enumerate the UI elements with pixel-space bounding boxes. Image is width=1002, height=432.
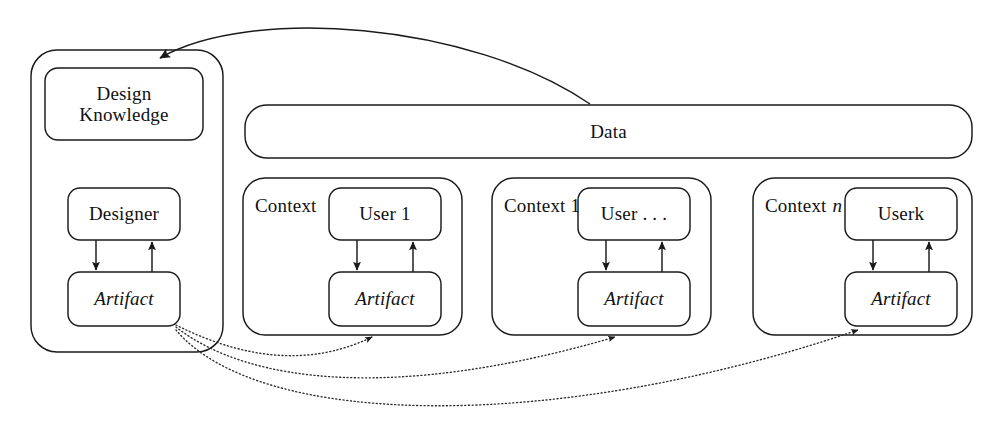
context-panel-3-outline: [753, 178, 972, 335]
context-3-artifact-box: [845, 272, 957, 326]
designer-artifact-box: [68, 272, 180, 326]
artifact-deploy-curve-3: [176, 330, 858, 406]
data-to-design-knowledge-curve: [160, 28, 590, 104]
context-1-artifact-box: [329, 272, 441, 326]
designer-box: [68, 188, 180, 240]
figure-canvas: Design Knowledge Designer Artifact Data …: [0, 0, 1002, 432]
designer-panel-outline: [31, 50, 223, 352]
context-2-user-box: [578, 188, 690, 240]
context-3-user-box: [845, 188, 957, 240]
design-knowledge-box: [45, 68, 203, 140]
diagram-vector-layer: [0, 0, 1002, 432]
context-1-user-box: [329, 188, 441, 240]
context-panel-2-outline: [492, 178, 711, 335]
context-panel-1-outline: [243, 178, 462, 335]
context-2-artifact-box: [578, 272, 690, 326]
data-bar-outline: [245, 105, 972, 158]
